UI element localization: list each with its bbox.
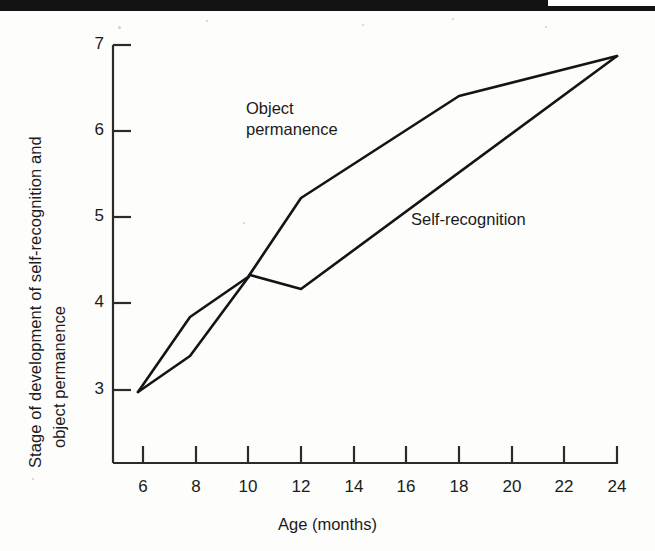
series-line-self-recognition bbox=[138, 56, 617, 392]
chart-figure: Stage of development of self-recognition… bbox=[0, 0, 655, 551]
plot-area bbox=[0, 0, 655, 551]
axis-lines bbox=[113, 45, 618, 463]
series-line-object-permanence bbox=[138, 56, 617, 392]
y-axis-ticks bbox=[113, 45, 131, 390]
x-axis-ticks bbox=[143, 446, 617, 463]
